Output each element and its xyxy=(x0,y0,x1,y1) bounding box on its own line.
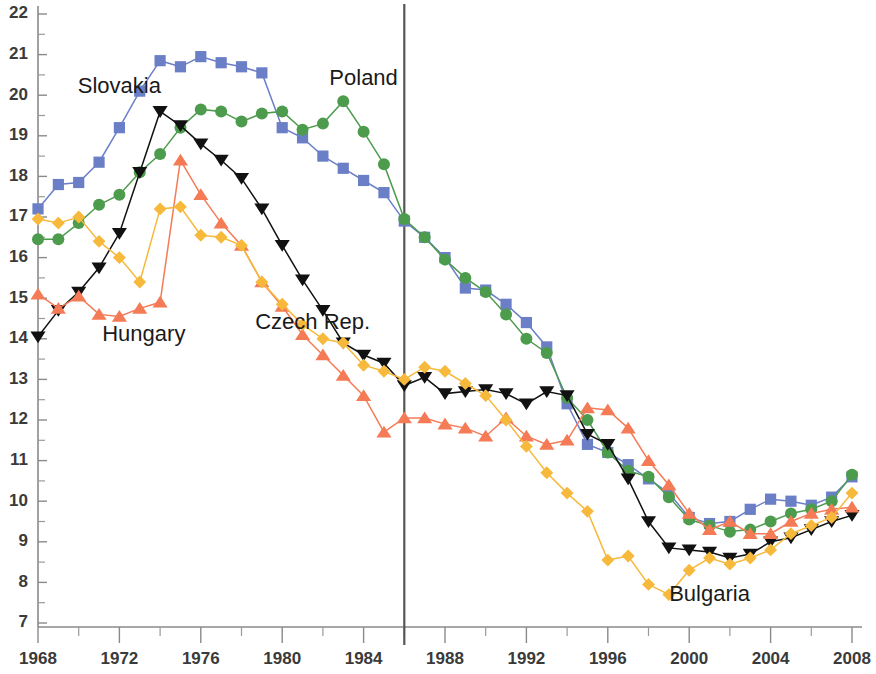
data-point-marker xyxy=(275,240,290,252)
x-tick-label: 1980 xyxy=(263,649,301,668)
data-point-marker xyxy=(398,213,410,225)
series-line xyxy=(38,160,852,534)
data-point-marker xyxy=(641,454,656,466)
x-tick-label: 1972 xyxy=(100,649,138,668)
data-point-marker xyxy=(765,516,777,528)
data-point-marker xyxy=(215,231,228,244)
data-point-marker xyxy=(642,578,655,591)
y-tick-label: 18 xyxy=(9,166,28,185)
data-point-marker xyxy=(234,173,249,185)
data-point-marker xyxy=(154,148,166,160)
data-point-marker xyxy=(316,332,329,345)
data-point-marker xyxy=(521,317,532,328)
axes-group xyxy=(38,6,862,627)
series-label-hungary: Hungary xyxy=(102,321,185,346)
y-tick-label: 11 xyxy=(10,450,28,469)
data-point-marker xyxy=(132,302,147,314)
y-tick-label: 13 xyxy=(9,369,28,388)
y-tick-label: 17 xyxy=(9,206,28,225)
y-tick-label: 14 xyxy=(9,328,28,347)
data-point-marker xyxy=(174,200,187,213)
data-point-marker xyxy=(580,401,595,413)
data-point-marker xyxy=(52,233,64,245)
data-point-marker xyxy=(254,204,269,216)
data-point-marker xyxy=(114,122,125,133)
data-point-marker xyxy=(317,151,328,162)
data-point-marker xyxy=(498,388,513,400)
series-line xyxy=(38,57,852,524)
y-tick-label: 19 xyxy=(9,125,28,144)
data-point-marker xyxy=(480,286,492,298)
data-point-marker xyxy=(91,262,106,274)
data-point-marker xyxy=(745,504,756,515)
data-point-marker xyxy=(52,217,65,230)
x-tick-label: 1988 xyxy=(426,649,464,668)
series-hungary xyxy=(30,154,859,539)
data-point-marker xyxy=(783,515,798,527)
x-tick-label: 1984 xyxy=(345,649,383,668)
data-point-marker xyxy=(93,199,105,211)
data-point-marker xyxy=(643,471,655,483)
x-tick-label: 2008 xyxy=(833,649,871,668)
data-point-marker xyxy=(256,107,268,119)
y-tick-label: 20 xyxy=(9,85,28,104)
data-point-marker xyxy=(621,474,636,486)
data-point-marker xyxy=(520,333,532,345)
data-point-marker xyxy=(154,202,167,215)
y-tick-label: 15 xyxy=(9,288,28,307)
data-point-marker xyxy=(378,158,390,170)
data-point-marker xyxy=(376,426,391,438)
data-point-marker xyxy=(419,231,431,243)
data-point-marker xyxy=(30,331,45,343)
data-point-marker xyxy=(32,233,44,245)
data-point-marker xyxy=(193,188,208,200)
x-tick-label: 2004 xyxy=(752,649,790,668)
data-point-marker xyxy=(32,213,45,226)
chart-canvas: 78910111213141516171819202122 1968197219… xyxy=(0,0,876,674)
series-label-poland: Poland xyxy=(329,65,398,90)
y-tick-label: 10 xyxy=(9,491,28,510)
data-point-marker xyxy=(723,558,736,571)
data-point-marker xyxy=(846,469,858,481)
data-point-marker xyxy=(317,118,329,130)
data-point-marker xyxy=(337,95,349,107)
data-point-marker xyxy=(663,491,675,503)
data-point-marker xyxy=(622,550,635,563)
data-point-marker xyxy=(214,217,229,229)
data-point-marker xyxy=(765,494,776,505)
data-point-marker xyxy=(520,440,533,453)
data-point-marker xyxy=(30,288,45,300)
y-tick-label: 9 xyxy=(19,531,28,550)
data-point-marker xyxy=(378,365,391,378)
y-tick-label: 8 xyxy=(19,572,28,591)
data-point-marker xyxy=(661,479,676,491)
data-point-marker xyxy=(560,434,575,446)
y-tick-label: 12 xyxy=(9,409,28,428)
data-point-marker xyxy=(358,175,369,186)
data-point-marker xyxy=(295,275,310,287)
x-axis-tick-labels: 1968197219761980198419881992199620002004… xyxy=(19,649,871,668)
x-tick-label: 1976 xyxy=(182,649,220,668)
data-point-marker xyxy=(297,124,309,136)
data-point-marker xyxy=(71,290,86,302)
data-point-marker xyxy=(439,365,452,378)
data-point-marker xyxy=(256,67,267,78)
data-point-marker xyxy=(844,501,859,513)
data-point-marker xyxy=(236,61,247,72)
data-point-marker xyxy=(216,57,227,68)
data-point-marker xyxy=(195,103,207,115)
data-point-marker xyxy=(541,347,553,359)
line-chart: 78910111213141516171819202122 1968197219… xyxy=(0,0,876,674)
series-label-slovakia: Slovakia xyxy=(78,73,162,98)
y-tick-label: 22 xyxy=(9,3,28,22)
data-point-marker xyxy=(724,526,736,538)
data-point-marker xyxy=(500,308,512,320)
data-point-marker xyxy=(500,299,511,310)
y-axis-ticks xyxy=(38,14,47,623)
y-tick-label: 7 xyxy=(19,612,28,631)
y-axis-tick-labels: 78910111213141516171819202122 xyxy=(9,3,28,631)
y-tick-label: 21 xyxy=(9,44,28,63)
series-line xyxy=(38,101,852,531)
data-point-marker xyxy=(460,282,471,293)
data-point-marker xyxy=(805,519,818,532)
